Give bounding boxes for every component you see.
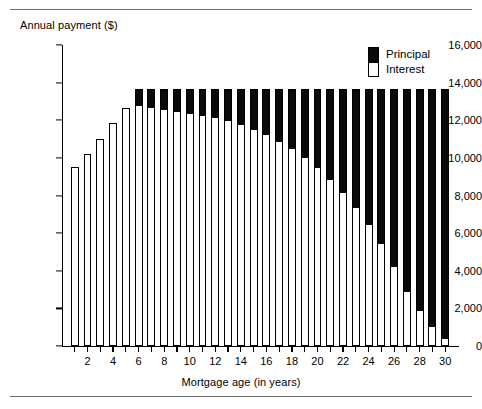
- bar-segment-principal: [263, 90, 269, 135]
- x-tick-mark: [317, 347, 318, 352]
- bar-year-16: [262, 89, 270, 346]
- x-tick-label: 18: [280, 355, 304, 367]
- x-tick-mark: [125, 347, 126, 352]
- x-tick-mark: [381, 347, 382, 352]
- x-tick-mark: [138, 347, 139, 352]
- x-tick-label: 4: [101, 355, 125, 367]
- bar-segment-principal: [251, 90, 257, 130]
- x-tick-mark: [202, 347, 203, 352]
- bar-year-3: [96, 139, 104, 346]
- bar-year-23: [352, 89, 360, 346]
- bar-year-29: [428, 89, 436, 346]
- bar-year-18: [288, 89, 296, 346]
- x-tick-label: 16: [254, 355, 278, 367]
- x-tick-mark: [253, 347, 254, 352]
- x-tick-mark: [330, 347, 331, 352]
- x-tick-label: 12: [203, 355, 227, 367]
- x-tick-mark: [419, 347, 420, 352]
- x-tick-mark: [227, 347, 228, 352]
- bar-year-24: [365, 89, 373, 346]
- x-axis-line: [62, 346, 459, 347]
- bar-segment-principal: [289, 90, 295, 149]
- bar-segment-principal: [404, 90, 410, 291]
- x-tick-mark: [164, 347, 165, 352]
- bar-segment-principal: [353, 90, 359, 208]
- bar-year-2: [84, 154, 92, 346]
- x-tick-label: 30: [433, 355, 457, 367]
- legend-label-principal: Principal: [386, 47, 430, 62]
- bar-segment-principal: [429, 90, 435, 327]
- bar-segment-principal: [225, 90, 231, 121]
- x-axis-title: Mortgage age (in years): [0, 376, 482, 388]
- bar-year-7: [147, 89, 155, 346]
- bar-segment-principal: [276, 90, 282, 142]
- bar-segment-principal: [340, 90, 346, 193]
- x-tick-mark: [266, 347, 267, 352]
- bar-segment-principal: [417, 90, 423, 311]
- x-tick-label: 28: [408, 355, 432, 367]
- bar-year-28: [416, 89, 424, 346]
- x-tick-mark: [87, 347, 88, 352]
- x-tick-mark: [394, 347, 395, 352]
- bar-segment-principal: [315, 90, 321, 168]
- bar-segment-principal: [366, 90, 372, 225]
- legend-swatch-principal: [368, 47, 379, 62]
- bar-segment-principal: [148, 90, 154, 108]
- bar-year-15: [250, 89, 258, 346]
- bar-year-8: [160, 89, 168, 346]
- x-tick-mark: [432, 347, 433, 352]
- bar-year-27: [403, 89, 411, 346]
- x-tick-mark: [355, 347, 356, 352]
- x-tick-label: 2: [76, 355, 100, 367]
- bar-year-10: [186, 89, 194, 346]
- bar-year-12: [211, 89, 219, 346]
- bar-segment-principal: [391, 90, 397, 267]
- x-tick-mark: [304, 347, 305, 352]
- bar-year-17: [275, 89, 283, 346]
- bar-year-30: [441, 89, 449, 346]
- x-tick-mark: [240, 347, 241, 352]
- chart-figure: Annual payment ($) Mortgage age (in year…: [0, 0, 482, 409]
- bar-year-13: [224, 89, 232, 346]
- y-axis-title: Annual payment ($): [20, 19, 118, 31]
- x-tick-label: 6: [127, 355, 151, 367]
- bar-segment-principal: [161, 90, 167, 110]
- x-tick-mark: [74, 347, 75, 352]
- bar-year-22: [339, 89, 347, 346]
- x-tick-mark: [176, 347, 177, 352]
- x-tick-mark: [112, 347, 113, 352]
- bar-year-20: [314, 89, 322, 346]
- x-tick-label: 10: [178, 355, 202, 367]
- x-tick-label: 26: [382, 355, 406, 367]
- x-tick-label: 24: [357, 355, 381, 367]
- legend-swatch-interest: [368, 62, 379, 77]
- bar-year-19: [301, 89, 309, 346]
- x-tick-mark: [368, 347, 369, 352]
- x-tick-mark: [151, 347, 152, 352]
- bar-year-1: [71, 167, 79, 346]
- bar-segment-principal: [302, 90, 308, 158]
- bar-segment-principal: [327, 90, 333, 179]
- bar-segment-principal: [212, 90, 218, 118]
- x-tick-mark: [100, 347, 101, 352]
- bar-year-14: [237, 89, 245, 346]
- bar-year-26: [390, 89, 398, 346]
- x-tick-mark: [189, 347, 190, 352]
- bar-segment-principal: [174, 90, 180, 112]
- x-tick-label: 14: [229, 355, 253, 367]
- x-tick-mark: [279, 347, 280, 352]
- bar-year-4: [109, 123, 117, 346]
- bar-segment-principal: [200, 90, 206, 115]
- x-tick-label: 20: [305, 355, 329, 367]
- bar-segment-principal: [378, 90, 384, 244]
- x-tick-mark: [342, 347, 343, 352]
- bar-segment-principal: [238, 90, 244, 125]
- x-tick-mark: [291, 347, 292, 352]
- x-tick-mark: [445, 347, 446, 352]
- x-tick-mark: [406, 347, 407, 352]
- top-rule: [10, 9, 472, 10]
- bar-segment-principal: [187, 90, 193, 114]
- x-tick-label: 22: [331, 355, 355, 367]
- bar-year-5: [122, 108, 130, 346]
- x-tick-label: 8: [152, 355, 176, 367]
